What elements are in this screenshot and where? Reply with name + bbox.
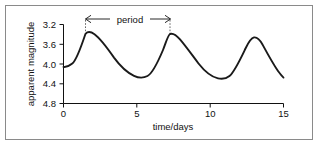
- light-curve-chart: 3.2 3.6 4.0 4.4 4.8 0 5 10 15 time/days …: [0, 0, 321, 148]
- period-annotation: period: [86, 14, 171, 25]
- y-tick-label-1: 3.6: [43, 39, 56, 50]
- y-tick-marks: [60, 25, 64, 104]
- period-annotation-label: period: [117, 14, 143, 25]
- x-tick-label-0: 0: [61, 108, 66, 119]
- x-tick-marks: [64, 104, 284, 108]
- light-curve-path: [64, 32, 284, 79]
- y-axis-title: apparent magnitude: [25, 22, 36, 107]
- y-tick-label-2: 4.0: [43, 59, 56, 70]
- x-tick-label-1: 5: [134, 108, 139, 119]
- y-tick-label-3: 4.4: [43, 78, 56, 89]
- x-tick-label-2: 10: [205, 108, 216, 119]
- figure-container: 3.2 3.6 4.0 4.4 4.8 0 5 10 15 time/days …: [0, 0, 321, 148]
- y-tick-label-0: 3.2: [43, 19, 56, 30]
- y-tick-label-4: 4.8: [43, 98, 56, 109]
- x-tick-label-3: 15: [278, 108, 289, 119]
- x-axis-title: time/days: [153, 121, 194, 132]
